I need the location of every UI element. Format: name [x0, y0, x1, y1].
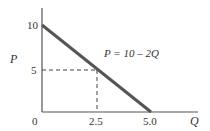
x-axis-label: Q — [190, 114, 199, 128]
y-tick-5: 5 — [31, 64, 37, 76]
origin-label: 0 — [32, 115, 38, 127]
demand-chart: 10 5 0 2.5 5.0 P Q P = 10 – 2Q — [0, 0, 210, 131]
y-tick-10: 10 — [27, 19, 39, 31]
x-tick-5-0: 5.0 — [143, 115, 157, 127]
y-axis-label: P — [9, 52, 18, 66]
x-tick-2-5: 2.5 — [89, 115, 103, 127]
equation-label: P = 10 – 2Q — [103, 47, 159, 59]
